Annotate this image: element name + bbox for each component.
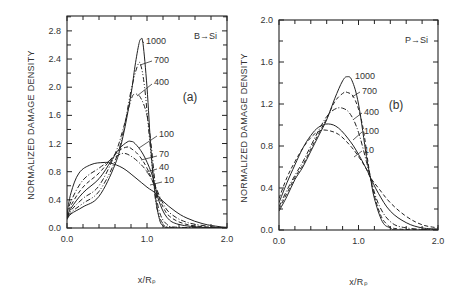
x-tick-label: 1.0	[141, 234, 154, 244]
y-axis-title: NORMALIZED DAMAGE DENSITY	[26, 50, 36, 200]
x-axis-title: x/Rₚ	[349, 277, 368, 287]
y-tick-label: 0.8	[260, 141, 273, 151]
curves-group	[67, 38, 227, 228]
y-tick-label: 2.4	[48, 54, 61, 64]
x-tick-label: 2.0	[221, 234, 234, 244]
curve-label-1000: 1000	[146, 36, 166, 46]
ion-target-label: B→Si	[194, 31, 217, 41]
y-tick-label: 0.0	[48, 223, 61, 233]
curve-label-700: 700	[154, 55, 169, 65]
y-tick-label: 1.2	[260, 99, 273, 109]
curve-400	[279, 108, 438, 230]
label-leader-line	[139, 136, 157, 148]
plot-frame	[67, 16, 227, 228]
y-tick-label: 1.6	[48, 110, 61, 120]
y-tick-label: 2.0	[48, 82, 61, 92]
label-leader-line	[141, 156, 157, 160]
x-tick-label: 0.0	[273, 236, 286, 246]
x-axis-title: x/Rₚ	[138, 275, 157, 285]
curve-label-100: 100	[159, 129, 174, 139]
y-tick-label: 2.0	[260, 15, 273, 25]
y-tick-label: 0.0	[260, 225, 273, 235]
curve-label-1000: 1000	[355, 71, 375, 81]
y-tick-label: 1.6	[260, 57, 273, 67]
curve-1000	[67, 38, 227, 228]
y-tick-label: 0.4	[48, 195, 61, 205]
curve-label-10: 10	[164, 175, 174, 185]
x-tick-label: 1.0	[352, 236, 365, 246]
curve-label-400: 400	[364, 107, 379, 117]
y-axis-title: NORMALIZED DAMAGE DENSITY	[239, 53, 249, 203]
panel-b-p-to-si-plot: 0.00.40.81.21.62.00.01.02.0NORMALIZED DA…	[239, 15, 444, 287]
y-tick-label: 2.8	[48, 26, 61, 36]
plot-frame	[279, 20, 438, 230]
x-tick-label: 0.0	[61, 234, 74, 244]
curve-100	[279, 124, 438, 229]
x-tick-label: 2.0	[432, 236, 445, 246]
curve-100	[67, 141, 227, 228]
y-tick-label: 0.4	[260, 183, 273, 193]
ion-target-label: P→Si	[405, 35, 428, 45]
curve-label-10: 10	[364, 145, 374, 155]
curve-10	[279, 130, 438, 228]
label-leader-line	[140, 61, 152, 65]
curve-label-40: 40	[159, 162, 169, 172]
panel-a-b-to-si-plot: 0.00.40.81.21.62.02.42.80.01.02.0NORMALI…	[26, 16, 233, 285]
curve-label-100: 100	[364, 126, 379, 136]
figure-canvas: 0.00.40.81.21.62.02.42.80.01.02.0NORMALI…	[0, 0, 462, 295]
panel-tag: (b)	[389, 98, 404, 112]
label-leader-line	[137, 84, 152, 96]
curve-label-70: 70	[159, 149, 169, 159]
label-leader-line	[150, 182, 162, 185]
y-tick-label: 0.8	[48, 167, 61, 177]
curve-label-400: 400	[154, 77, 169, 87]
label-leader-line	[353, 132, 362, 140]
y-tick-label: 1.2	[48, 139, 61, 149]
panel-tag: (a)	[183, 90, 198, 104]
curve-label-700: 700	[362, 86, 377, 96]
